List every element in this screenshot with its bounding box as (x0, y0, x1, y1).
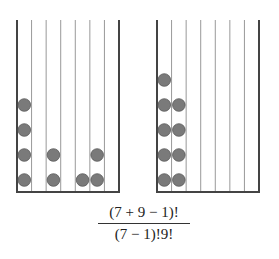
ball (173, 149, 186, 162)
formula-denominator: (7 − 1)!9! (96, 224, 192, 243)
bin-frame (17, 20, 119, 192)
ball (91, 174, 104, 187)
ball (91, 149, 104, 162)
formula-numerator: (7 + 9 − 1)! (96, 204, 192, 223)
ball (158, 99, 171, 112)
ball (158, 74, 171, 87)
ball (18, 149, 31, 162)
ball (158, 149, 171, 162)
right-bin-box (157, 20, 259, 192)
ball (158, 124, 171, 137)
ball (47, 149, 60, 162)
ball (158, 174, 171, 187)
ball (173, 99, 186, 112)
ball (173, 174, 186, 187)
ball (47, 174, 60, 187)
left-bin-box (17, 20, 119, 192)
combination-formula: (7 + 9 − 1)! (7 − 1)!9! (96, 204, 192, 243)
ball (18, 174, 31, 187)
ball (173, 124, 186, 137)
ball (76, 174, 89, 187)
ball (18, 124, 31, 137)
ball (18, 99, 31, 112)
